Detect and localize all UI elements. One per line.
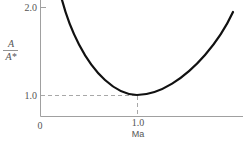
x-axis-label: Ma [132, 129, 145, 139]
y-tick-label-1: 1.0 [25, 90, 38, 101]
area-ratio-curve [62, 0, 233, 95]
y-axis-label-denominator: A* [4, 51, 16, 62]
x-tick-label-1: 1.0 [132, 117, 145, 128]
y-tick-label-2: 2.0 [25, 2, 38, 13]
area-ratio-chart: 2.0 1.0 0 1.0 Ma A A* [0, 0, 243, 143]
y-axis-label-numerator: A [7, 38, 15, 49]
x-tick-label-0: 0 [38, 120, 43, 131]
